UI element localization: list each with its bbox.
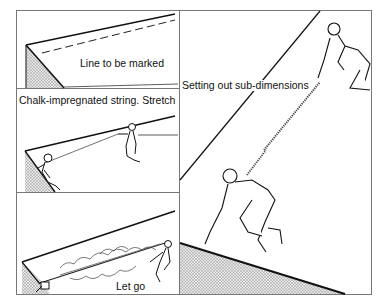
chalk-line-diagram: Line to be marked Chalk-impregnated stri… bbox=[0, 0, 383, 308]
label-setting-out: Setting out sub-dimensions bbox=[182, 80, 309, 91]
panel-setting-out bbox=[180, 11, 370, 294]
panel-let-go bbox=[22, 211, 175, 294]
panel-line-to-be-marked bbox=[26, 14, 178, 88]
chalk-dust-cloud bbox=[60, 246, 156, 279]
panel-stretch-string bbox=[25, 116, 178, 192]
worker-figure-upper bbox=[318, 23, 370, 90]
label-let-go: Let go bbox=[116, 281, 145, 292]
worker-figure-lower bbox=[205, 169, 282, 252]
label-line-to-be-marked: Line to be marked bbox=[80, 58, 164, 69]
label-stretch: Chalk-impregnated string. Stretch bbox=[19, 95, 175, 106]
diagram-illustration bbox=[0, 0, 383, 308]
